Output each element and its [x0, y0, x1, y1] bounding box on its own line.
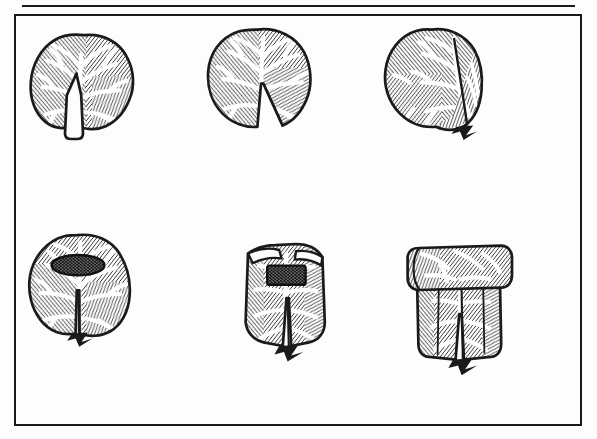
egg-mass [267, 266, 305, 285]
egg-mass [52, 255, 105, 275]
panel-leaf-partly-rolled [224, 232, 344, 362]
top-horizontal-rule [22, 5, 575, 7]
panel-leaf-cut [201, 20, 321, 140]
panel-leaf-overlapped [376, 20, 496, 140]
leaf-veins [432, 290, 490, 356]
panel-leaf-intact [26, 22, 146, 142]
fold-seam [286, 298, 288, 346]
panel-leaf-fully-rolled [398, 230, 518, 375]
illustration-canvas [16, 16, 580, 424]
roll-crease-right [483, 286, 484, 353]
panel-leaf-egg-mass [24, 228, 144, 348]
leaf-blade-hatching [201, 20, 321, 140]
plate-frame [14, 14, 582, 426]
leaf-blade-hatching [26, 22, 146, 142]
leaf-blade-hatching [24, 228, 144, 348]
petiole-stub [452, 126, 477, 140]
roll-crease-left [438, 289, 439, 355]
fold-seam [460, 290, 462, 360]
petiole-stub [448, 358, 477, 375]
figure-root: Intact rounded leaf seen from below with… [0, 0, 597, 439]
petiole-stub [274, 345, 303, 362]
